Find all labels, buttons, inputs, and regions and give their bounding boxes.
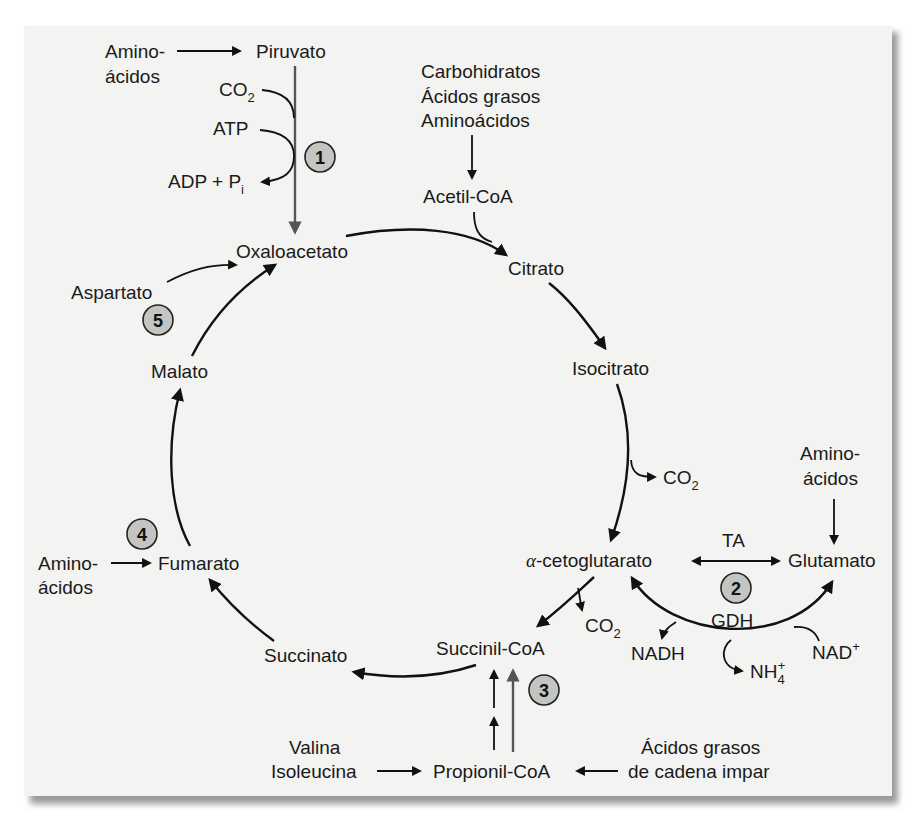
aminoacids-label-1a: Amino- <box>105 41 165 62</box>
label-succinil-coa: Succinil-CoA <box>436 638 545 659</box>
label-carbohidratos: Carbohidratos <box>421 61 540 82</box>
badge-2: 2 <box>721 573 751 603</box>
anaplerotic-diagram: Amino- ácidos Piruvato CO2 ATP ADP + Pi … <box>0 0 918 816</box>
label-fumarato: Fumarato <box>158 553 239 574</box>
aminoacids-label-4b: ácidos <box>38 577 93 598</box>
label-malato: Malato <box>151 361 208 382</box>
badge-4: 4 <box>127 519 157 549</box>
badge-3: 3 <box>529 675 559 705</box>
label-acidos-grasos-impar-1: Ácidos grasos <box>641 737 760 758</box>
aminoacids-label-4a: Amino- <box>38 553 98 574</box>
svg-text:5: 5 <box>153 311 163 331</box>
label-atp: ATP <box>213 118 249 139</box>
label-citrato: Citrato <box>508 258 564 279</box>
aminoacids-label-2b: ácidos <box>803 468 858 489</box>
label-isoleucina: Isoleucina <box>271 761 357 782</box>
label-acidos-grasos-impar-2: de cadena impar <box>628 761 770 782</box>
aminoacids-label-1b: ácidos <box>105 66 160 87</box>
label-acetil-coa: Acetil-CoA <box>423 186 513 207</box>
aminoacids-label-2a: Amino- <box>800 443 860 464</box>
svg-text:3: 3 <box>539 681 549 701</box>
label-ta: TA <box>722 530 745 551</box>
label-glutamato: Glutamato <box>788 550 876 571</box>
svg-text:1: 1 <box>315 148 325 168</box>
label-isocitrato: Isocitrato <box>572 358 649 379</box>
label-alfa-cetoglutarato: α-cetoglutarato <box>526 550 652 571</box>
label-oxaloacetato: Oxaloacetato <box>236 241 348 262</box>
label-aminoacidos: Aminoácidos <box>421 110 530 131</box>
label-nadh: NADH <box>631 643 685 664</box>
label-succinato: Succinato <box>264 645 347 666</box>
label-piruvato: Piruvato <box>256 41 326 62</box>
label-aspartato: Aspartato <box>71 282 152 303</box>
svg-text:2: 2 <box>731 579 741 599</box>
badge-5: 5 <box>143 305 173 335</box>
label-valina: Valina <box>289 737 341 758</box>
badge-1: 1 <box>305 142 335 172</box>
label-acidos-grasos: Ácidos grasos <box>421 86 540 107</box>
label-propionil-coa: Propionil-CoA <box>433 761 551 782</box>
svg-text:4: 4 <box>137 525 147 545</box>
